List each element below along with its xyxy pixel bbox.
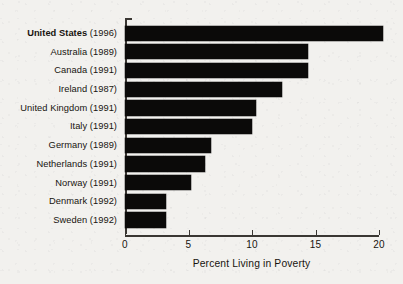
bar [125,63,308,78]
bar-row [125,117,381,136]
plot-area [125,24,381,234]
x-axis-tick-label: 5 [186,239,192,250]
bar [125,119,252,134]
bar-row [125,24,381,43]
x-axis-tick [189,230,190,236]
poverty-bar-chart-figure: United States (1996)Australia (1989)Cana… [0,0,403,284]
category-label-year: (1992) [87,196,117,206]
x-axis-tick [379,230,380,236]
category-label: Australia (1989) [0,43,121,62]
x-axis-line [125,235,379,237]
bar [125,194,166,209]
category-label-country: Netherlands [37,159,88,169]
category-label-country: Ireland [58,84,87,94]
bar-row [125,61,381,80]
category-label-year: (1991) [87,159,117,169]
category-label: Ireland (1987) [0,80,121,99]
category-label: United States (1996) [0,24,121,43]
category-label-country: Denmark [49,196,87,206]
category-label-year: (1992) [87,215,117,225]
category-label-year: (1991) [87,178,117,188]
bar [125,138,211,153]
category-label-year: (1991) [87,103,117,113]
x-axis-tick-label: 10 [246,239,258,250]
bar-row [125,211,381,230]
category-label: Germany (1989) [0,136,121,155]
category-label-country: Australia [51,47,88,57]
bar [125,100,256,115]
bar-row [125,155,381,174]
category-label-country: Italy [70,121,87,131]
bar-row [125,192,381,211]
category-axis-labels: United States (1996)Australia (1989)Cana… [0,24,121,230]
category-label-country: Canada [54,65,87,75]
bar [125,82,282,97]
bar [125,26,383,41]
category-label: Norway (1991) [0,174,121,193]
category-label: Italy (1991) [0,117,121,136]
y-axis-top-corner-tick [125,18,132,20]
category-label-year: (1991) [87,65,117,75]
category-label-year: (1987) [87,84,117,94]
bar-series [125,24,381,230]
category-label-year: (1989) [87,140,117,150]
x-axis-tick-label: 0 [122,239,128,250]
category-label-country: Norway [55,178,87,188]
x-axis-tick-label: 15 [310,239,322,250]
category-label: Canada (1991) [0,61,121,80]
bar [125,156,205,171]
category-label-country: Germany [49,140,88,150]
category-label-year: (1996) [87,28,117,38]
bar-row [125,136,381,155]
category-label-year: (1991) [87,121,117,131]
x-axis-tick [316,230,317,236]
category-label: Netherlands (1991) [0,155,121,174]
category-label-country: United States [27,28,87,38]
bar [125,44,308,59]
bar-row [125,80,381,99]
category-label-year: (1989) [87,47,117,57]
x-axis-tick [252,230,253,236]
bar-row [125,43,381,62]
category-label: Denmark (1992) [0,192,121,211]
x-axis-tick [125,230,126,236]
x-axis-title: Percent Living in Poverty [0,258,403,269]
x-axis-tick-label: 20 [373,239,385,250]
bar [125,212,166,227]
category-label-country: United Kingdom [20,103,87,113]
category-label: United Kingdom (1991) [0,99,121,118]
bar [125,175,191,190]
category-label-country: Sweden [53,215,87,225]
bar-row [125,99,381,118]
bar-row [125,174,381,193]
category-label: Sweden (1992) [0,211,121,230]
